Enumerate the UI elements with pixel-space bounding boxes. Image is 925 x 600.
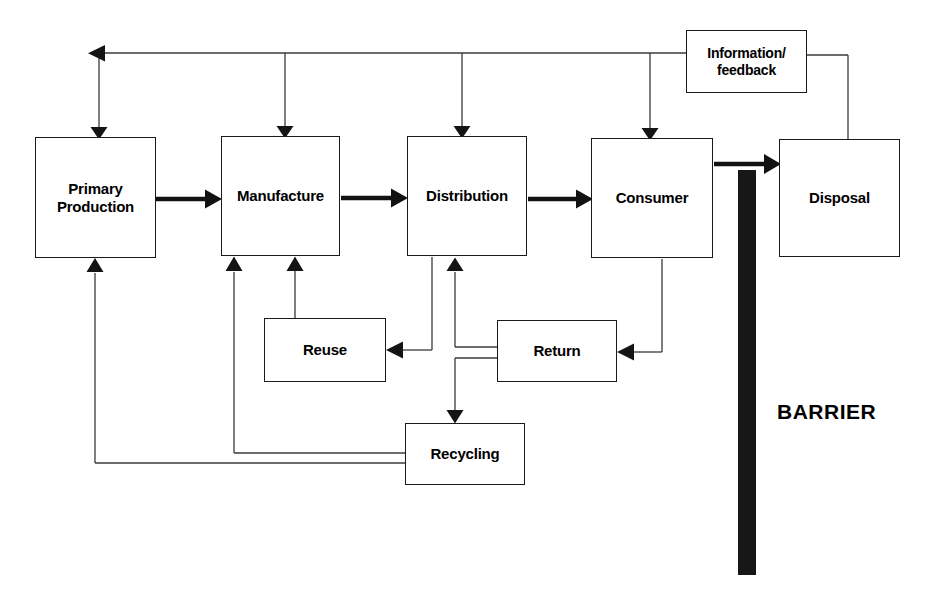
feedback-bus-arrowheads xyxy=(88,45,659,141)
node-information-feedback[interactable]: Information/ feedback xyxy=(686,30,807,93)
node-recycling-label: Recycling xyxy=(427,445,502,462)
node-return[interactable]: Return xyxy=(497,320,617,382)
arrowhead-recycling-primary xyxy=(87,258,104,272)
node-primary-production-label: Primary Production xyxy=(54,180,137,215)
node-manufacture[interactable]: Manufacture xyxy=(221,136,340,256)
arrowhead-distribution-reuse xyxy=(386,342,403,359)
barrier-bar xyxy=(738,170,756,575)
barrier-label: BARRIER xyxy=(777,400,876,424)
node-distribution[interactable]: Distribution xyxy=(407,136,527,256)
node-information-feedback-label: Information/ feedback xyxy=(704,45,788,77)
node-disposal-label: Disposal xyxy=(806,189,873,206)
node-consumer-label: Consumer xyxy=(613,189,692,206)
diagram-canvas: Primary Production Manufacture Distribut… xyxy=(0,0,925,600)
arrowhead-return-recycling xyxy=(447,410,464,424)
node-reuse-label: Reuse xyxy=(300,341,350,358)
arrowhead-recycling-manufacture xyxy=(226,257,243,272)
node-consumer[interactable]: Consumer xyxy=(591,138,713,258)
node-manufacture-label: Manufacture xyxy=(234,187,327,204)
arrowhead-return-distribution xyxy=(447,258,464,272)
node-reuse[interactable]: Reuse xyxy=(264,318,386,382)
node-disposal[interactable]: Disposal xyxy=(779,139,900,257)
node-return-label: Return xyxy=(530,342,583,359)
arrowhead-reuse-manufacture xyxy=(287,257,304,272)
arrowhead-feedback-bus-left xyxy=(88,45,105,62)
arrowhead-manufacture-distribution xyxy=(391,189,408,208)
arrowhead-primary-manufacture xyxy=(205,190,222,209)
node-recycling[interactable]: Recycling xyxy=(405,423,525,485)
arrowhead-consumer-return xyxy=(617,344,634,361)
node-primary-production[interactable]: Primary Production xyxy=(35,137,156,258)
node-distribution-label: Distribution xyxy=(423,187,511,204)
